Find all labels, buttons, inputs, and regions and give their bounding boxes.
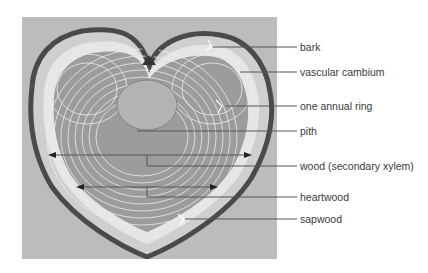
label-heartwood: heartwood [300,191,349,203]
label-wood: wood (secondary xylem) [300,160,414,172]
label-sapwood: sapwood [300,213,342,225]
label-bark: bark [300,41,320,53]
trunk-illustration [22,17,277,259]
pith-region [117,80,177,130]
trunk-cross-section-photo [22,17,277,259]
label-annual-ring: one annual ring [300,100,372,112]
label-pith: pith [300,125,317,137]
label-vascular-cambium: vascular cambium [300,66,385,78]
